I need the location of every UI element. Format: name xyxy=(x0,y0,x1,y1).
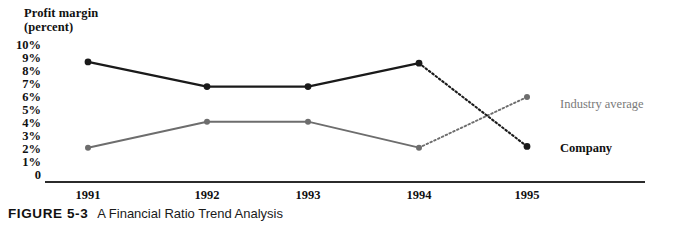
figure-number-label: FIGURE 5-3 xyxy=(8,206,88,221)
data-point xyxy=(85,145,91,151)
figure-container: Profit margin (percent) 10% 9% 8% 7% 6% … xyxy=(0,0,677,232)
series-industry-average xyxy=(85,94,530,151)
chart-plot-area xyxy=(0,0,677,232)
x-tick-1991: 1991 xyxy=(76,188,101,203)
data-point xyxy=(416,145,422,151)
x-axis-line xyxy=(45,181,645,183)
series-company xyxy=(85,59,531,150)
industry-average-markers xyxy=(85,94,530,151)
company-line xyxy=(88,62,419,87)
data-point xyxy=(204,119,210,125)
legend-label-company: Company xyxy=(560,141,612,156)
legend-label-industry-average: Industry average xyxy=(560,97,644,112)
x-tick-1992: 1992 xyxy=(195,188,220,203)
industry-average-line xyxy=(88,122,419,148)
x-tick-1993: 1993 xyxy=(296,188,321,203)
x-tick-1995: 1995 xyxy=(515,188,540,203)
data-point xyxy=(416,60,423,67)
data-point xyxy=(524,143,531,150)
data-point xyxy=(524,94,530,100)
company-markers xyxy=(85,59,531,150)
data-point xyxy=(204,83,211,90)
data-point xyxy=(85,59,92,66)
figure-caption: FIGURE 5-3 A Financial Ratio Trend Analy… xyxy=(8,206,283,221)
data-point xyxy=(305,83,312,90)
data-point xyxy=(305,119,311,125)
x-tick-1994: 1994 xyxy=(407,188,432,203)
figure-title-label: A Financial Ratio Trend Analysis xyxy=(97,206,283,221)
